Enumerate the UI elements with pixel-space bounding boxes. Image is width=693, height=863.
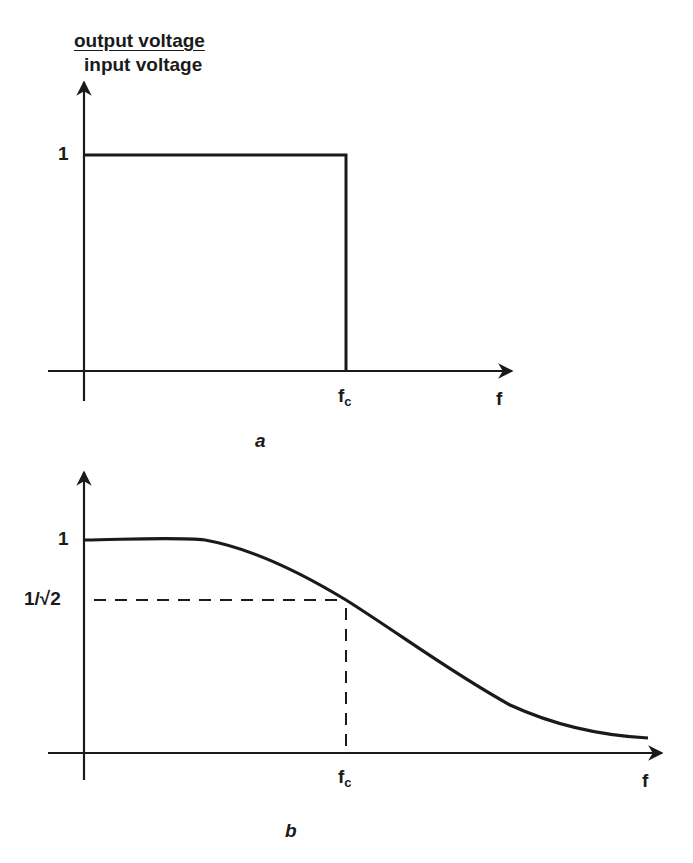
panel-a-fc-sub: c xyxy=(344,394,351,409)
panel-b xyxy=(48,472,662,780)
panel-a-caption: a xyxy=(255,430,266,452)
panel-b-y-tick-1: 1 xyxy=(58,528,69,550)
panel-b-practical-response xyxy=(84,538,648,738)
panel-b-y-tick-half-power: 1/√2 xyxy=(24,588,61,610)
panel-a-x-axis-label: f xyxy=(496,388,502,410)
filter-response-diagram xyxy=(0,0,693,863)
panel-a-x-tick-fc: fc xyxy=(338,385,352,409)
panel-a xyxy=(48,82,512,401)
y-axis-label-denominator: input voltage xyxy=(84,54,202,76)
panel-a-y-tick-1: 1 xyxy=(58,143,69,165)
panel-b-x-tick-fc: fc xyxy=(338,766,352,790)
panel-b-x-axis-label: f xyxy=(642,770,648,792)
panel-b-caption: b xyxy=(285,820,297,842)
y-axis-label-numerator: output voltage xyxy=(74,30,205,52)
panel-a-ideal-response xyxy=(84,155,346,371)
panel-b-fc-sub: c xyxy=(344,775,351,790)
